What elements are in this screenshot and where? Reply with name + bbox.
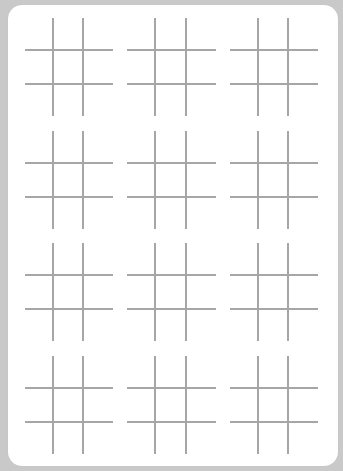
board-cell[interactable]: [22, 352, 54, 388]
board-cell[interactable]: [292, 14, 324, 50]
board-cell[interactable]: [227, 423, 259, 459]
board-cell[interactable]: [259, 352, 291, 388]
board-cell[interactable]: [87, 310, 119, 346]
board-cell[interactable]: [259, 423, 291, 459]
board-cell[interactable]: [227, 85, 259, 121]
board-cell[interactable]: [189, 14, 221, 50]
board-cell[interactable]: [227, 198, 259, 234]
board-cell[interactable]: [157, 239, 189, 275]
board-cell[interactable]: [189, 352, 221, 388]
board-cell[interactable]: [87, 239, 119, 275]
board-cell[interactable]: [157, 423, 189, 459]
board-cell[interactable]: [292, 85, 324, 121]
board-cell[interactable]: [124, 275, 156, 311]
board-cell[interactable]: [87, 162, 119, 198]
board-cell[interactable]: [227, 239, 259, 275]
board-cell[interactable]: [259, 310, 291, 346]
board-cell[interactable]: [124, 14, 156, 50]
board-cell[interactable]: [157, 85, 189, 121]
board-cell[interactable]: [54, 85, 86, 121]
board-cell[interactable]: [259, 198, 291, 234]
board-cell[interactable]: [124, 423, 156, 459]
board-cell[interactable]: [22, 198, 54, 234]
board-cell[interactable]: [227, 14, 259, 50]
board-cell[interactable]: [259, 85, 291, 121]
board-cell[interactable]: [292, 239, 324, 275]
board-cell[interactable]: [157, 14, 189, 50]
board-cell[interactable]: [22, 85, 54, 121]
board-cell[interactable]: [54, 198, 86, 234]
board-cell[interactable]: [292, 387, 324, 423]
board-cell[interactable]: [157, 198, 189, 234]
board-cell[interactable]: [124, 127, 156, 163]
board-cell[interactable]: [292, 50, 324, 86]
board-cell[interactable]: [227, 352, 259, 388]
board-cell[interactable]: [87, 387, 119, 423]
board-cell[interactable]: [227, 387, 259, 423]
board-cell[interactable]: [292, 275, 324, 311]
board-cell[interactable]: [157, 275, 189, 311]
board-cell[interactable]: [227, 310, 259, 346]
board-cell[interactable]: [189, 387, 221, 423]
board-cell[interactable]: [54, 239, 86, 275]
board-cell[interactable]: [189, 423, 221, 459]
board-cell[interactable]: [292, 310, 324, 346]
board-cell[interactable]: [157, 127, 189, 163]
board-cell[interactable]: [87, 275, 119, 311]
board-cell[interactable]: [54, 275, 86, 311]
board-cell[interactable]: [22, 239, 54, 275]
board-cell[interactable]: [157, 387, 189, 423]
board-cell[interactable]: [22, 423, 54, 459]
board-cell[interactable]: [157, 310, 189, 346]
board-cell[interactable]: [22, 14, 54, 50]
board-cell[interactable]: [54, 50, 86, 86]
board-cell[interactable]: [189, 85, 221, 121]
board-cell[interactable]: [87, 423, 119, 459]
board-cell[interactable]: [87, 14, 119, 50]
board-cell[interactable]: [189, 275, 221, 311]
board-cell[interactable]: [22, 50, 54, 86]
board-cell[interactable]: [227, 275, 259, 311]
board-cell[interactable]: [124, 310, 156, 346]
board-cell[interactable]: [259, 14, 291, 50]
board-cell[interactable]: [87, 198, 119, 234]
board-cell[interactable]: [124, 50, 156, 86]
board-cell[interactable]: [292, 423, 324, 459]
board-cell[interactable]: [54, 14, 86, 50]
board-cell[interactable]: [227, 50, 259, 86]
board-cell[interactable]: [259, 387, 291, 423]
board-cell[interactable]: [259, 50, 291, 86]
board-cell[interactable]: [292, 127, 324, 163]
board-cell[interactable]: [87, 352, 119, 388]
board-cell[interactable]: [124, 387, 156, 423]
board-cell[interactable]: [189, 127, 221, 163]
board-cell[interactable]: [124, 198, 156, 234]
board-cell[interactable]: [189, 162, 221, 198]
board-cell[interactable]: [157, 50, 189, 86]
board-cell[interactable]: [292, 162, 324, 198]
board-cell[interactable]: [259, 239, 291, 275]
board-cell[interactable]: [22, 275, 54, 311]
board-cell[interactable]: [189, 198, 221, 234]
board-cell[interactable]: [292, 352, 324, 388]
board-cell[interactable]: [259, 127, 291, 163]
board-cell[interactable]: [54, 352, 86, 388]
board-cell[interactable]: [259, 162, 291, 198]
board-cell[interactable]: [54, 423, 86, 459]
board-cell[interactable]: [124, 162, 156, 198]
board-cell[interactable]: [124, 352, 156, 388]
board-cell[interactable]: [292, 198, 324, 234]
board-cell[interactable]: [157, 352, 189, 388]
board-cell[interactable]: [189, 50, 221, 86]
board-cell[interactable]: [22, 162, 54, 198]
board-cell[interactable]: [54, 162, 86, 198]
board-cell[interactable]: [227, 162, 259, 198]
board-cell[interactable]: [189, 310, 221, 346]
board-cell[interactable]: [22, 127, 54, 163]
board-cell[interactable]: [54, 127, 86, 163]
board-cell[interactable]: [87, 50, 119, 86]
board-cell[interactable]: [189, 239, 221, 275]
board-cell[interactable]: [227, 127, 259, 163]
board-cell[interactable]: [54, 387, 86, 423]
board-cell[interactable]: [22, 310, 54, 346]
